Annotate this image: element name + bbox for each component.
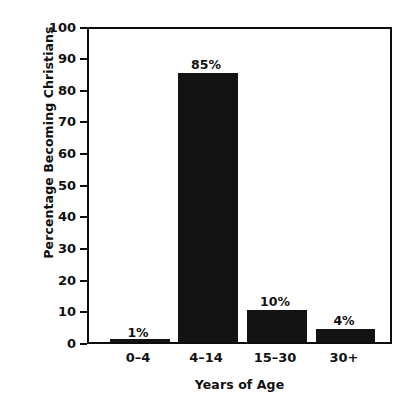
y-tick-mark-0 — [80, 343, 87, 345]
bar-chart-figure: Percentage Becoming Christians 0 10 20 3… — [0, 0, 418, 414]
y-tick-mark-50 — [80, 185, 87, 187]
y-tick-mark-80 — [80, 90, 87, 92]
bar-15-30 — [247, 310, 307, 342]
y-tick-mark-30 — [80, 248, 87, 250]
x-axis-title: Years of Age — [87, 377, 392, 392]
y-tick-mark-60 — [80, 153, 87, 155]
y-tick-label-40: 40 — [58, 208, 76, 225]
y-tick-mark-40 — [80, 216, 87, 218]
y-tick-mark-100 — [80, 27, 87, 29]
bar-value-label-30-plus: 4% — [304, 313, 384, 328]
bar-value-label-15-30: 10% — [235, 294, 315, 309]
y-tick-label-10: 10 — [58, 303, 76, 320]
y-tick-label-70: 70 — [58, 113, 76, 130]
y-tick-label-50: 50 — [58, 177, 76, 194]
y-tick-mark-10 — [80, 311, 87, 313]
y-tick-mark-70 — [80, 121, 87, 123]
y-tick-label-0: 0 — [67, 335, 76, 352]
y-tick-label-30: 30 — [58, 240, 76, 257]
y-tick-mark-20 — [80, 280, 87, 282]
bar-value-label-0-4: 1% — [98, 325, 178, 340]
x-tick-label-30-plus: 30+ — [299, 350, 389, 366]
bar-value-label-4-14: 85% — [166, 57, 246, 72]
y-tick-label-20: 20 — [58, 272, 76, 289]
y-axis-title: Percentage Becoming Christians — [41, 0, 56, 293]
bar-4-14 — [178, 73, 238, 342]
y-tick-label-60: 60 — [58, 145, 76, 162]
y-tick-label-80: 80 — [58, 82, 76, 99]
y-tick-mark-90 — [80, 58, 87, 60]
bar-30-plus — [316, 329, 375, 342]
y-tick-label-100: 100 — [49, 19, 76, 36]
y-tick-label-90: 90 — [58, 50, 76, 67]
